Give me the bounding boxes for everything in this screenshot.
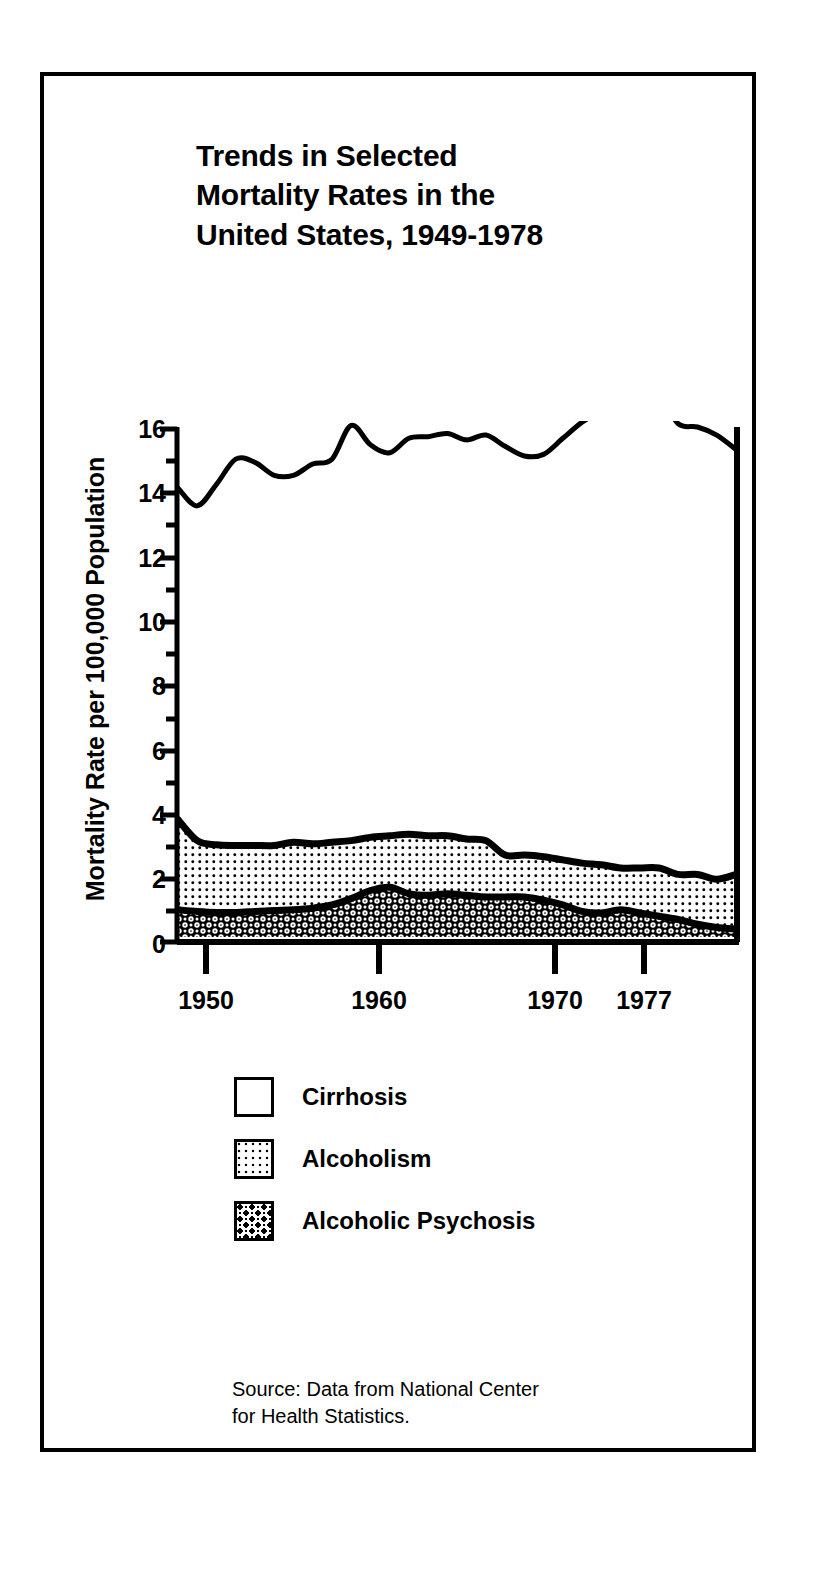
x-axis-ticks	[206, 942, 644, 974]
legend-swatch-cirrhosis-icon	[234, 1077, 274, 1117]
legend-item-alcoholism[interactable]: Alcoholism	[234, 1128, 694, 1190]
legend-swatch-alcoholism-icon	[234, 1139, 274, 1179]
legend-item-psychosis[interactable]: Alcoholic Psychosis	[234, 1190, 694, 1252]
legend-item-cirrhosis[interactable]: Cirrhosis	[234, 1066, 694, 1128]
x-tick-labels: 1950 1960 1970 1977	[178, 986, 672, 1014]
legend-swatch-psychosis-icon	[234, 1201, 274, 1241]
legend-label-psychosis: Alcoholic Psychosis	[302, 1207, 535, 1235]
x-tick-label-1960: 1960	[351, 986, 407, 1014]
x-tick-label-1977: 1977	[616, 986, 672, 1014]
x-tick-label-1950: 1950	[178, 986, 234, 1014]
figure-border: Trends in Selected Mortality Rates in th…	[40, 72, 756, 1452]
stacked-areas-generated	[178, 391, 736, 942]
legend-label-cirrhosis: Cirrhosis	[302, 1083, 407, 1111]
legend-label-alcoholism: Alcoholism	[302, 1145, 431, 1173]
x-tick-label-1970: 1970	[527, 986, 583, 1014]
source-line-1: Source: Data from National Center	[232, 1376, 692, 1403]
source-note: Source: Data from National Center for He…	[232, 1376, 692, 1430]
source-line-2: for Health Statistics.	[232, 1403, 692, 1430]
y-axis-title: Mortality Rate per 100,000 Population	[81, 457, 109, 902]
chart-legend: Cirrhosis Alcoholism Alcoholic Psychosis	[234, 1066, 694, 1252]
